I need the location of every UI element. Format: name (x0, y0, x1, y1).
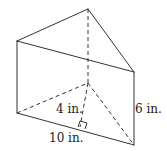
prism-length-label: 6 in. (135, 102, 162, 116)
top-edge-front (17, 41, 134, 72)
right-angle-marker (78, 121, 87, 129)
triangular-prism-diagram: 4 in. 10 in. 6 in. (0, 0, 167, 151)
altitude-label: 4 in. (56, 102, 83, 116)
top-edge-left (17, 9, 88, 41)
top-edge-right (88, 9, 134, 72)
hidden-bottom-right-edge (88, 83, 134, 145)
base-label: 10 in. (49, 131, 83, 145)
